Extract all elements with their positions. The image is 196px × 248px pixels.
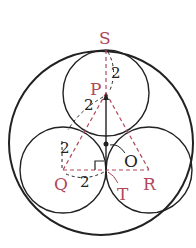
label-t: T [117, 184, 129, 204]
length-q-vertical: 2 [60, 139, 70, 157]
label-q: Q [54, 174, 68, 194]
label-s: S [99, 28, 111, 48]
length-qt: 2 [80, 173, 90, 191]
label-r: R [143, 174, 157, 194]
right-angle-icon [95, 161, 104, 170]
label-o: O [124, 151, 138, 171]
length-pq: 2 [84, 96, 94, 114]
circle-diagram: S P Q R T O 2 2 2 2 [0, 0, 196, 248]
length-sp: 2 [111, 64, 121, 82]
pointer-t [108, 172, 118, 183]
arrow-head-p [103, 93, 109, 100]
center-dot-o [104, 142, 109, 147]
